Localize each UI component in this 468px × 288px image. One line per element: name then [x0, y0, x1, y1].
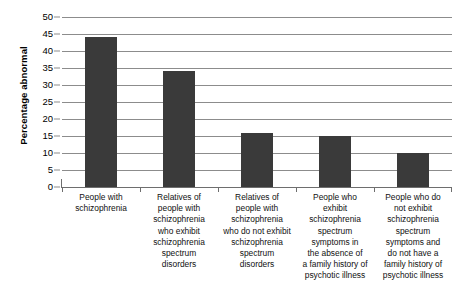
x-category-label-line: a family history of [296, 259, 374, 270]
x-category-label-line: Relatives of [218, 192, 296, 203]
y-tick-mark [54, 68, 60, 69]
x-category-label-line: Relatives of [140, 192, 218, 203]
x-category-label-line: exhibit [296, 203, 374, 214]
x-category-label-line: who do not exhibit [218, 226, 296, 237]
gridline [62, 102, 452, 103]
x-category-label: People who donot exhibitschizophreniaspe… [374, 192, 452, 282]
x-category-label-line: spectrum [296, 226, 374, 237]
y-tick-mark [54, 119, 60, 120]
bar [319, 136, 351, 187]
y-tick-mark [54, 187, 60, 188]
bar [163, 71, 195, 187]
gridline [62, 119, 452, 120]
y-tick-label: 5 [48, 165, 53, 175]
bar [85, 37, 117, 187]
x-category-label-line: schizophrenia [296, 214, 374, 225]
x-category-label-line: do not have a [374, 248, 452, 259]
y-tick-label: 50 [42, 12, 53, 22]
x-category-label-line: symptoms and [374, 237, 452, 248]
x-category-label-line: disorders [218, 259, 296, 270]
x-category-label-line: People who [296, 192, 374, 203]
x-category-label: People whoexhibitschizophreniaspectrumsy… [296, 192, 374, 282]
y-axis-title: Percentage abnormal [14, 0, 32, 190]
y-tick-label: 0 [48, 182, 53, 192]
y-tick-mark [54, 102, 60, 103]
bar-chart-figure: Percentage abnormal 50454035302520151050… [0, 0, 468, 288]
x-category-label-line: schizophrenia [62, 203, 140, 214]
x-category-label: Relatives ofpeople withschizophreniawho … [218, 192, 296, 270]
x-category-label: Relatives ofpeople withschizophreniawho … [140, 192, 218, 270]
x-category-label-line: schizophrenia [140, 237, 218, 248]
y-tick-mark [54, 136, 60, 137]
x-category-label-line: schizophrenia [218, 237, 296, 248]
x-category-label-line: psychotic illness [296, 270, 374, 281]
x-category-label-line: spectrum [218, 248, 296, 259]
y-tick-label: 45 [42, 29, 53, 39]
x-category-label-line: disorders [140, 259, 218, 270]
x-category-label-line: people with [140, 203, 218, 214]
x-category-label-line: symptoms in [296, 237, 374, 248]
gridline [62, 68, 452, 69]
bar [241, 133, 273, 187]
y-tick-mark [54, 153, 60, 154]
y-tick-label: 40 [42, 46, 53, 56]
x-category-label-line: People who do [374, 192, 452, 203]
y-tick-mark [54, 170, 60, 171]
x-category-label-line: not exhibit [374, 203, 452, 214]
x-category-label-line: People with [62, 192, 140, 203]
x-category-label-line: schizophrenia [218, 214, 296, 225]
y-tick-label: 30 [42, 80, 53, 90]
axis-baseline [62, 187, 452, 188]
x-category-label-line: psychotic illness [374, 270, 452, 281]
y-tick-label: 25 [42, 97, 53, 107]
x-category-label-line: spectrum [374, 226, 452, 237]
y-tick-mark [54, 17, 60, 18]
gridline [62, 51, 452, 52]
x-category-label-line: family history of [374, 259, 452, 270]
y-tick-label: 10 [42, 148, 53, 158]
y-tick-label: 15 [42, 131, 53, 141]
x-category-label-line: schizophrenia [374, 214, 452, 225]
gridline [62, 34, 452, 35]
x-category-label-line: schizophrenia [140, 214, 218, 225]
y-tick-label: 20 [42, 114, 53, 124]
x-category-label-line: the absence of [296, 248, 374, 259]
x-category-label-line: who exhibit [140, 226, 218, 237]
x-axis-category-labels: People withschizophreniaRelatives ofpeop… [62, 192, 452, 284]
x-category-label: People withschizophrenia [62, 192, 140, 214]
gridline [62, 17, 452, 18]
y-tick-mark [54, 34, 60, 35]
x-category-label-line: spectrum [140, 248, 218, 259]
y-axis-title-text: Percentage abnormal [18, 46, 29, 145]
gridline [62, 85, 452, 86]
y-tick-mark [54, 85, 60, 86]
plot-area: 50454035302520151050 [62, 17, 452, 187]
bar [397, 153, 429, 187]
y-tick-label: 35 [42, 63, 53, 73]
x-category-label-line: people with [218, 203, 296, 214]
y-tick-mark [54, 51, 60, 52]
